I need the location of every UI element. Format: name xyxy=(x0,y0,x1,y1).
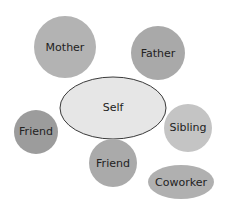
center-label: Self xyxy=(103,101,125,114)
node-label: Friend xyxy=(96,157,130,170)
node-label: Sibling xyxy=(169,121,206,134)
node-label: Mother xyxy=(46,41,85,54)
node-label: Father xyxy=(141,47,176,60)
node-friend-left: Friend xyxy=(14,110,58,154)
node-label: Coworker xyxy=(155,176,207,189)
node-sibling: Sibling xyxy=(164,104,212,152)
node-coworker: Coworker xyxy=(148,165,214,199)
node-father: Father xyxy=(131,26,185,80)
node-self: Self xyxy=(60,77,166,139)
node-friend-bottom: Friend xyxy=(89,139,137,187)
relationship-diagram: Mother Father Self Friend Sibling Friend… xyxy=(0,0,227,213)
node-label: Friend xyxy=(19,125,53,138)
node-mother: Mother xyxy=(34,16,96,78)
